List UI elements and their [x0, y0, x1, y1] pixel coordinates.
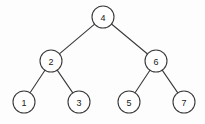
tree-node-5[interactable]: 5	[118, 91, 140, 113]
node-label-3: 3	[76, 98, 81, 108]
tree-node-1[interactable]: 1	[13, 91, 35, 113]
tree-canvas: 4261357	[0, 0, 205, 124]
node-label-5: 5	[126, 98, 131, 108]
tree-edge-4-2	[59, 24, 94, 54]
tree-edge-6-5	[135, 70, 150, 93]
tree-edge-2-1	[30, 70, 45, 93]
node-label-1: 1	[21, 98, 26, 108]
node-label-4: 4	[100, 13, 105, 23]
node-label-6: 6	[153, 57, 158, 67]
tree-nodes: 4261357	[13, 6, 195, 113]
tree-node-6[interactable]: 6	[145, 50, 167, 72]
node-label-2: 2	[48, 57, 53, 67]
tree-node-2[interactable]: 2	[40, 50, 62, 72]
tree-node-4[interactable]: 4	[92, 6, 114, 28]
binary-tree-figure: 4261357	[0, 0, 205, 124]
node-label-7: 7	[181, 98, 186, 108]
tree-node-3[interactable]: 3	[68, 91, 90, 113]
tree-edge-4-6	[111, 24, 147, 54]
tree-edge-2-3	[57, 70, 73, 93]
tree-node-7[interactable]: 7	[173, 91, 195, 113]
tree-edge-6-7	[162, 70, 178, 93]
